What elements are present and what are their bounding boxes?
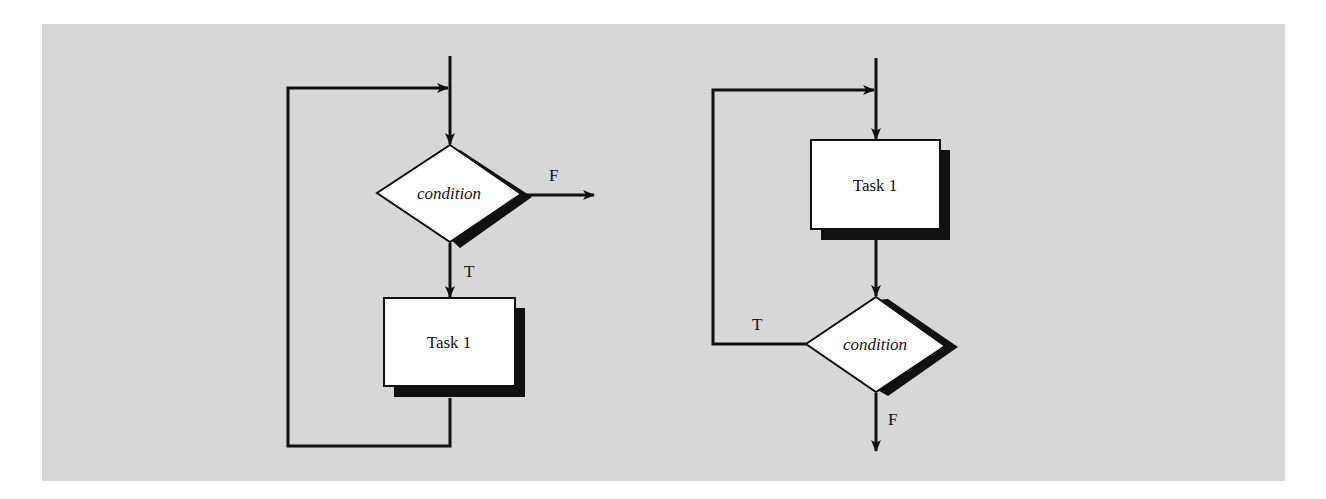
do-while-loop-flowchart: T Task 1 condition F (713, 58, 958, 451)
decision-label: condition (417, 184, 481, 203)
false-label: F (888, 410, 897, 429)
decision-label: condition (843, 335, 907, 354)
task-label: Task 1 (853, 176, 898, 195)
task-label: Task 1 (427, 333, 472, 352)
true-label: T (752, 315, 763, 334)
true-label: T (464, 262, 475, 281)
while-loop-flowchart: condition F T Task 1 (288, 56, 594, 446)
flowchart-diagrams: condition F T Task 1 T Task 1 condition … (0, 0, 1326, 499)
false-label: F (549, 166, 558, 185)
